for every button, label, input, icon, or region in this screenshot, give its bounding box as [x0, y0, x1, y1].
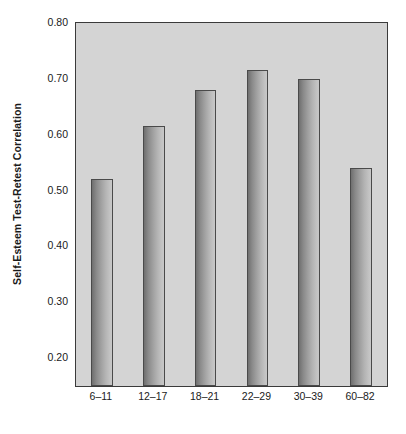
x-axis-tick-labels: 6–1112–1718–2122–2930–3960–82 [75, 390, 388, 414]
x-axis-tick-label: 12–17 [138, 390, 167, 402]
bar-chart-figure: Self-Esteem Test-Retest Correlation 0.80… [0, 0, 406, 434]
y-axis-title-text: Self-Esteem Test-Retest Correlation [11, 103, 23, 285]
x-axis-tick-label: 60–82 [345, 390, 374, 402]
y-axis-tick-label: 0.30 [48, 295, 68, 307]
x-axis-tick-label: 6–11 [90, 390, 113, 402]
bar [298, 79, 320, 386]
y-axis-tick-label: 0.50 [48, 184, 68, 196]
bar [247, 70, 269, 386]
y-axis-tick-label: 0.20 [48, 351, 68, 363]
bar [350, 168, 372, 386]
y-axis-tick-labels: 0.800.700.600.500.400.300.20 [34, 0, 72, 400]
y-axis-tick-label: 0.40 [48, 239, 68, 251]
bar [143, 126, 165, 386]
y-axis-tick-label: 0.60 [48, 128, 68, 140]
y-axis-title: Self-Esteem Test-Retest Correlation [0, 0, 34, 388]
bar [91, 179, 113, 386]
y-axis-tick-label: 0.80 [48, 16, 68, 28]
x-axis-tick-label: 22–29 [242, 390, 271, 402]
bar [195, 90, 217, 386]
y-axis-tick-label: 0.70 [48, 72, 68, 84]
x-axis-tick-label: 18–21 [190, 390, 219, 402]
plot-area [75, 22, 388, 387]
x-axis-tick-label: 30–39 [294, 390, 323, 402]
